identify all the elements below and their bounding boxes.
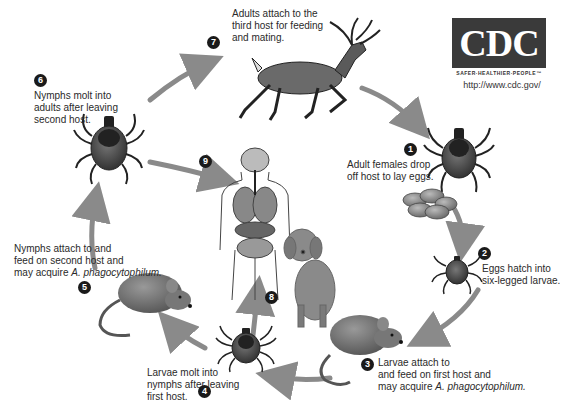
cdc-logo: CDC [452,18,546,68]
step-3-label: Larvae attach to and feed on first host … [378,357,526,393]
step-6-label: Nymphs molt into adults after leaving se… [34,90,118,126]
step-9-badge: 9 [199,155,212,168]
arrow-9-to-human [150,162,225,180]
arrow-eggs-to-2 [452,205,463,248]
step-1-label: Adult females drop off host to lay eggs. [347,159,434,183]
step-7-label: Adults attach to the third host for feed… [232,8,323,44]
step-5-badge: 5 [78,281,91,294]
larva-tick [432,256,482,294]
cdc-logo-text: CDC [452,22,546,64]
cdc-url-link[interactable]: http://www.cdc.gov/ [452,80,552,90]
arrow-6-to-7 [150,62,210,100]
dog-illustration [284,229,335,327]
arrow-deer-to-1 [362,88,420,128]
nymph-tick [216,326,276,372]
cycle-arrows [92,62,478,380]
adult-tick-right [424,128,494,192]
step-8-badge: 8 [265,291,278,304]
egg-cluster [403,189,457,219]
step-1-badge: 1 [404,143,417,156]
arrow-2-to-3 [420,290,478,340]
step-4-label: Larvae molt into nymphs after leaving fi… [147,367,239,403]
step-6-badge: 6 [34,74,47,87]
step-7-badge: 7 [207,36,220,49]
arrow-4-to-5 [168,322,205,348]
cdc-tagline: SAFER·HEALTHIER·PEOPLE™ [452,70,546,76]
mouse-second-host [100,273,192,336]
human-anatomy [220,148,290,300]
step-4-badge: 4 [198,385,211,398]
step-2-label: Eggs hatch into six-legged larvae. [482,263,560,287]
step-2-badge: 2 [478,247,491,260]
step-3-badge: 3 [361,358,374,371]
step-5-label: Nymphs attach to and feed on second host… [14,243,162,279]
